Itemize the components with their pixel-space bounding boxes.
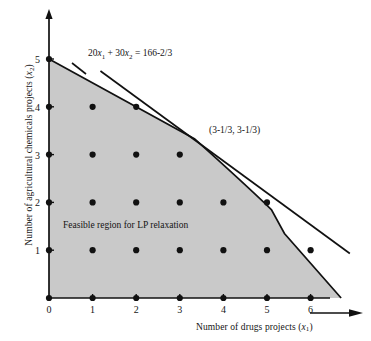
y-axis-title: Number of agricultural chemicals project… xyxy=(24,66,35,246)
lattice-point xyxy=(46,152,52,158)
lattice-point xyxy=(90,247,96,253)
feasible-region-shape xyxy=(49,59,341,298)
y-tick-label: 2 xyxy=(35,197,40,208)
up-arrow-icon xyxy=(45,9,52,19)
eq-rhs: = 166-2/3 xyxy=(133,48,173,58)
y-axis-title-sub: 2 xyxy=(28,67,36,71)
feasible-region-fill xyxy=(49,59,341,298)
x-tick-label: 0 xyxy=(47,304,52,315)
lattice-point xyxy=(177,247,183,253)
lattice-point xyxy=(220,295,226,301)
lattice-point xyxy=(90,152,96,158)
lattice-point xyxy=(220,247,226,253)
lattice-point xyxy=(46,104,52,110)
y-tick-label: 1 xyxy=(35,245,40,256)
lattice-point xyxy=(133,295,139,301)
x-tick-label: 2 xyxy=(134,304,139,315)
lattice-point xyxy=(133,247,139,253)
vertex-coordinate-label: (3-1/3, 3-1/3) xyxy=(209,125,260,136)
y-axis-title-close: ) xyxy=(24,64,34,67)
feasible-region-label: Feasible region for LP relaxation xyxy=(63,220,188,230)
lattice-point xyxy=(264,199,270,205)
x-axis-title: Number of drugs projects (x1) xyxy=(196,322,313,333)
lattice-point xyxy=(46,199,52,205)
lattice-point xyxy=(133,199,139,205)
x-axis-title-close: ) xyxy=(309,322,312,332)
lattice-point xyxy=(308,295,314,301)
lattice-point xyxy=(177,199,183,205)
lattice-point xyxy=(177,152,183,158)
eq-coef-1: 20 xyxy=(88,48,98,58)
x-tick-label: 3 xyxy=(177,304,182,315)
x-tick-label: 4 xyxy=(221,304,226,315)
y-tick-label: 4 xyxy=(35,102,40,113)
lattice-point xyxy=(264,295,270,301)
lattice-point xyxy=(177,295,183,301)
lattice-point xyxy=(46,295,52,301)
constraint-equation-label: 20x1 + 30x2 = 166-2/3 xyxy=(88,48,172,61)
lattice-point xyxy=(90,104,96,110)
lattice-point xyxy=(264,247,270,253)
plot-canvas: 012345612345 20x1 + 30x2 = 166-2/3 (3-1/… xyxy=(0,0,371,341)
y-axis-title-var: x xyxy=(24,71,34,75)
x-tick-label: 5 xyxy=(265,304,270,315)
x-axis-title-text: Number of drugs projects ( xyxy=(196,322,302,332)
lattice-point xyxy=(90,199,96,205)
lp-feasible-region-figure: Number of agricultural chemicals project… xyxy=(0,0,371,341)
x-tick-label: 6 xyxy=(308,304,313,315)
eq-operator: + 30 xyxy=(105,48,125,58)
lattice-point xyxy=(133,152,139,158)
y-axis-title-text: Number of agricultural chemicals project… xyxy=(24,75,34,245)
x-tick-label: 1 xyxy=(90,304,95,315)
lattice-point xyxy=(46,56,52,62)
lattice-point xyxy=(220,199,226,205)
lattice-point xyxy=(90,295,96,301)
lattice-point xyxy=(133,104,139,110)
lattice-point xyxy=(46,247,52,253)
y-tick-label: 5 xyxy=(35,54,40,65)
lattice-point xyxy=(308,247,314,253)
y-tick-label: 3 xyxy=(35,150,40,161)
